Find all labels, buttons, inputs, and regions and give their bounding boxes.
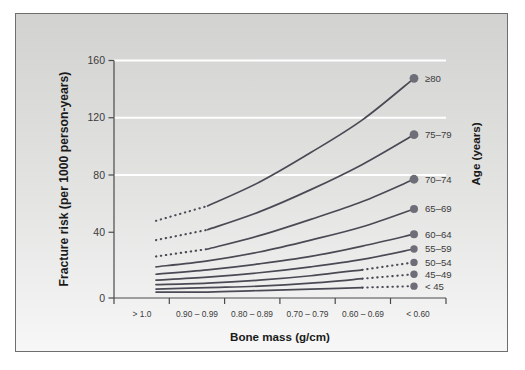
endpoint-marker-1 xyxy=(410,74,419,83)
y-tick-label-160: 160 xyxy=(87,54,105,66)
legend-label-65–69: 65–69 xyxy=(425,203,452,214)
endpoint-marker-9 xyxy=(410,282,417,289)
figure-panel: 160 120 80 40 0 > 1.0 0.90 – 0.99 0.80 –… xyxy=(15,13,508,352)
legend-label-45–49: 45–49 xyxy=(425,269,452,280)
legend-label-55–59: 55–59 xyxy=(425,243,452,254)
x-tick-label-3: 0.70 – 0.79 xyxy=(287,309,329,319)
figure-root: 160 120 80 40 0 > 1.0 0.90 – 0.99 0.80 –… xyxy=(0,0,525,370)
legend-label-≥80: ≥80 xyxy=(425,73,441,84)
legend-label-70–74: 70–74 xyxy=(425,174,452,185)
y-axis-title: Fracture risk (per 1000 person-years) xyxy=(57,72,71,287)
y-tick-label-0: 0 xyxy=(99,292,105,304)
y-tick-label-40: 40 xyxy=(93,226,105,238)
legend-label-60–64: 60–64 xyxy=(425,229,452,240)
y-tick-label-120: 120 xyxy=(87,111,105,123)
x-tick-label-2: 0.80 – 0.89 xyxy=(231,309,273,319)
legend-label-75–79: 75–79 xyxy=(425,129,452,140)
y-tick-label-80: 80 xyxy=(93,169,105,181)
endpoint-marker-6 xyxy=(410,245,417,252)
fracture-risk-chart: 160 120 80 40 0 > 1.0 0.90 – 0.99 0.80 –… xyxy=(16,14,507,351)
x-axis-title: Bone mass (g/cm) xyxy=(230,330,330,343)
endpoint-marker-4 xyxy=(410,205,418,213)
legend-label-< 45: < 45 xyxy=(425,281,444,292)
endpoint-marker-8 xyxy=(410,271,417,278)
legend-title: Age (years) xyxy=(469,122,482,185)
endpoint-marker-5 xyxy=(410,230,418,238)
x-tick-label-4: 0.60 – 0.69 xyxy=(342,309,384,319)
legend-label-50–54: 50–54 xyxy=(425,257,452,268)
endpoint-marker-7 xyxy=(410,259,417,266)
x-tick-label-1: 0.90 – 0.99 xyxy=(176,309,218,319)
endpoint-marker-2 xyxy=(410,130,419,139)
endpoint-marker-3 xyxy=(410,175,419,184)
x-tick-label-0: > 1.0 xyxy=(133,309,152,319)
x-tick-label-5: < 0.60 xyxy=(406,309,430,319)
